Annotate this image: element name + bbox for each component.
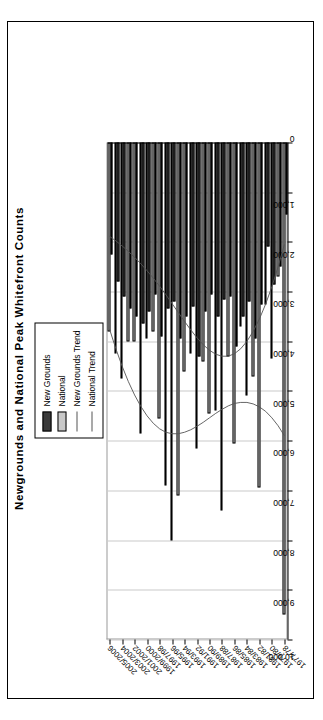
bar-new-grounds bbox=[173, 143, 175, 302]
value-axis-tick bbox=[288, 192, 293, 193]
bar-new-grounds bbox=[179, 143, 181, 339]
bar-new-grounds bbox=[217, 143, 219, 317]
bar-new-grounds bbox=[110, 143, 112, 255]
value-axis-label: 4,000 bbox=[273, 349, 294, 359]
bar-new-grounds bbox=[167, 143, 169, 309]
bar-new-grounds bbox=[148, 143, 150, 312]
legend-label-new-grounds-trend: New Grounds Trend bbox=[72, 330, 82, 406]
chart-frame: Newgrounds and National Peak Whitefront … bbox=[7, 21, 314, 699]
legend-swatch-national-trend bbox=[91, 412, 92, 432]
bar-new-grounds bbox=[142, 143, 144, 324]
value-axis-label: 6,000 bbox=[273, 448, 294, 458]
value-axis-label: 0 bbox=[290, 133, 295, 143]
gridline bbox=[108, 490, 287, 491]
zero-baseline bbox=[108, 143, 287, 144]
value-axis-tick bbox=[288, 590, 293, 591]
value-axis-label: 5,000 bbox=[273, 398, 294, 408]
bar-new-grounds bbox=[198, 143, 200, 357]
bar-new-grounds bbox=[223, 143, 225, 300]
bar-new-grounds bbox=[248, 143, 250, 302]
chart-legend: New Grounds National New Grounds Trend N… bbox=[35, 322, 104, 438]
bar-new-grounds bbox=[154, 143, 156, 295]
rotated-chart-stage: Newgrounds and National Peak Whitefront … bbox=[9, 21, 314, 697]
bar-new-grounds bbox=[123, 143, 125, 297]
value-axis-label: 3,000 bbox=[273, 299, 294, 309]
legend-item-national: National bbox=[56, 330, 68, 431]
value-axis-tick bbox=[288, 292, 293, 293]
legend-item-national-trend: National Trend bbox=[86, 330, 98, 431]
value-axis-label: 10,000 bbox=[269, 652, 295, 662]
bar-new-grounds bbox=[185, 143, 187, 317]
value-axis-tick bbox=[288, 441, 293, 442]
chart-page: Newgrounds and National Peak Whitefront … bbox=[0, 0, 323, 720]
chart-title: Newgrounds and National Peak Whitefront … bbox=[13, 21, 25, 697]
legend-label-new-grounds: New Grounds bbox=[42, 355, 52, 407]
value-axis-label: 8,000 bbox=[273, 547, 294, 557]
value-axis-tick bbox=[288, 242, 293, 243]
chart: Newgrounds and National Peak Whitefront … bbox=[9, 21, 314, 697]
bar-new-grounds bbox=[260, 143, 262, 305]
legend-item-new-grounds: New Grounds bbox=[41, 330, 53, 431]
value-axis-tick bbox=[288, 391, 293, 392]
legend-label-national: National bbox=[57, 375, 67, 406]
plot-area bbox=[107, 143, 288, 640]
gridline bbox=[108, 540, 287, 541]
bar-new-grounds bbox=[242, 143, 244, 317]
value-axis-label: 2,000 bbox=[273, 249, 294, 259]
bar-new-grounds bbox=[267, 143, 269, 247]
bar-new-grounds bbox=[192, 143, 194, 307]
bar-new-grounds bbox=[160, 143, 162, 337]
legend-item-new-grounds-trend: New Grounds Trend bbox=[71, 330, 83, 431]
value-axis-tick bbox=[288, 490, 293, 491]
legend-label-national-trend: National Trend bbox=[87, 351, 97, 406]
value-axis-tick bbox=[288, 540, 293, 541]
value-axis: 01,0002,0003,0004,0005,0006,0007,0008,00… bbox=[288, 143, 294, 640]
value-axis-tick bbox=[288, 640, 293, 641]
bar-new-grounds bbox=[129, 143, 131, 309]
value-axis-tick bbox=[288, 341, 293, 342]
bar-new-grounds bbox=[235, 143, 237, 347]
gridline bbox=[108, 590, 287, 591]
bar-new-grounds bbox=[229, 143, 231, 297]
legend-swatch-new-grounds-trend bbox=[76, 412, 77, 432]
value-axis-label: 1,000 bbox=[273, 199, 294, 209]
bar-new-grounds bbox=[210, 143, 212, 295]
bar-new-grounds bbox=[254, 143, 256, 339]
bar-new-grounds bbox=[117, 143, 119, 282]
legend-swatch-new-grounds bbox=[42, 412, 51, 432]
bar-new-grounds bbox=[204, 143, 206, 312]
bar-new-grounds bbox=[135, 143, 137, 317]
value-axis-label: 7,000 bbox=[273, 498, 294, 508]
legend-swatch-national bbox=[57, 412, 66, 432]
value-axis-label: 9,000 bbox=[273, 597, 294, 607]
bar-new-grounds bbox=[273, 143, 275, 285]
